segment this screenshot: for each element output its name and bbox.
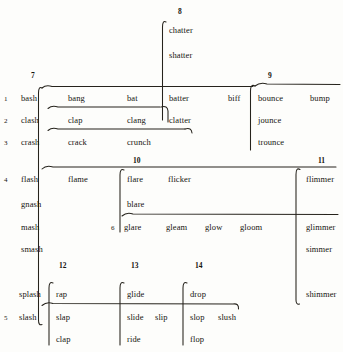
word-bat: bat <box>127 93 138 103</box>
word-clap: clap <box>56 334 71 344</box>
bracket-row5-line <box>42 303 239 309</box>
word-trounce: trounce <box>258 137 284 147</box>
word-slip: slip <box>155 312 168 322</box>
word-glide: glide <box>127 289 145 299</box>
column-number-11: 11 <box>318 157 325 165</box>
word-flop: flop <box>190 334 204 344</box>
word-shimmer: shimmer <box>306 289 336 299</box>
row-number-5: 5 <box>4 314 8 322</box>
word-shatter: shatter <box>169 50 192 60</box>
word-bump: bump <box>310 93 330 103</box>
bracket-col8-vertical <box>163 22 167 120</box>
row-number-6: 6 <box>111 224 115 232</box>
word-rap: rap <box>56 289 67 299</box>
word-flicker: flicker <box>168 174 191 184</box>
word-glare: glare <box>124 222 142 232</box>
bracket-col9-vertical <box>251 85 256 150</box>
word-glimmer: glimmer <box>306 222 336 232</box>
word-clash: clash <box>21 115 39 125</box>
word-chatter: chatter <box>169 25 193 35</box>
word-drop: drop <box>190 289 206 299</box>
word-slap: slap <box>56 312 70 322</box>
word-biff: biff <box>228 93 241 103</box>
word-slop: slop <box>190 312 205 322</box>
word-ride: ride <box>127 334 141 344</box>
word-batter: batter <box>169 93 189 103</box>
bracket-row1-top <box>42 86 162 88</box>
word-smash: smash <box>21 244 43 254</box>
word-jounce: jounce <box>258 115 281 125</box>
row-number-3: 3 <box>4 139 8 147</box>
word-crash: crash <box>21 137 39 147</box>
word-slash: slash <box>19 312 37 322</box>
column-number-14: 14 <box>195 262 203 270</box>
row-number-2: 2 <box>4 117 8 125</box>
word-flame: flame <box>68 174 88 184</box>
bracket-row6-top <box>122 213 338 216</box>
word-slide: slide <box>127 312 144 322</box>
column-number-8: 8 <box>178 8 182 16</box>
word-gleam: gleam <box>166 222 187 232</box>
bracket-col9-top <box>255 83 340 86</box>
column-number-7: 7 <box>31 72 35 80</box>
word-blare: blare <box>127 199 145 209</box>
word-slush: slush <box>218 312 236 322</box>
word-flimmer: flimmer <box>306 174 334 184</box>
word-flare: flare <box>127 174 143 184</box>
row-number-4: 4 <box>4 176 8 184</box>
word-clap: clap <box>68 115 83 125</box>
word-bang: bang <box>68 93 85 103</box>
column-number-9: 9 <box>268 72 272 80</box>
bracket-col13-vertical <box>120 283 124 345</box>
column-number-13: 13 <box>131 262 139 270</box>
word-crack: crack <box>68 137 87 147</box>
word-splash: splash <box>19 289 41 299</box>
word-simmer: simmer <box>306 244 332 254</box>
row-number-1: 1 <box>4 95 8 103</box>
word-crunch: crunch <box>127 137 151 147</box>
word-gnash: gnash <box>21 199 41 209</box>
word-bash: bash <box>21 93 37 103</box>
word-gloom: gloom <box>240 222 262 232</box>
phonestheme-chart: chattershatterbashbangbatbatterbiffbounc… <box>0 0 343 352</box>
word-glow: glow <box>205 222 222 232</box>
word-clatter: clatter <box>169 115 191 125</box>
bracket-col12-vertical <box>49 283 53 345</box>
bracket-row3-top <box>48 128 185 130</box>
bracket-col11-vertical <box>296 169 300 304</box>
word-clang: clang <box>127 115 146 125</box>
bracket-row3-hook <box>185 129 192 134</box>
bracket-row2-top <box>48 106 160 108</box>
word-flash: flash <box>21 174 38 184</box>
column-number-12: 12 <box>59 262 67 270</box>
bracket-row4-top <box>42 166 336 169</box>
word-mash: mash <box>21 222 39 232</box>
word-bounce: bounce <box>258 93 283 103</box>
column-number-10: 10 <box>133 157 141 165</box>
bracket-col14-vertical <box>183 283 187 345</box>
